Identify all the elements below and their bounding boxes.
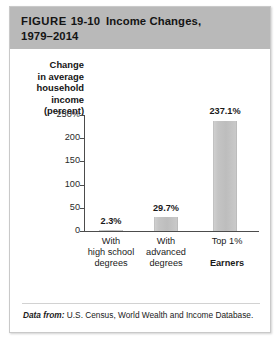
y-tick-mark-250: [80, 115, 85, 116]
source-note-text: U.S. Census, World Wealth and Income Dat…: [67, 310, 253, 320]
source-divider: [22, 303, 260, 304]
y-axis-tick-labels: 250% 200 150 100 50 0: [14, 49, 80, 302]
y-tick-mark-100: [80, 185, 85, 186]
bar-high-school-degrees[interactable]: [99, 230, 123, 231]
x-axis-line: [84, 231, 259, 232]
bar-value-top-1-percent-earners: 237.1%: [197, 107, 253, 117]
y-tick-mark-50: [80, 208, 85, 209]
y-tick-mark-0: [80, 231, 85, 232]
x-cat1-line2: advanced: [140, 247, 192, 258]
figure-number: 19-10: [71, 15, 100, 27]
x-cat2-line1: Top 1%: [199, 236, 255, 247]
figure-title-line2: 1979–2014: [21, 30, 78, 42]
x-category-label-top-1-percent-earners: Top 1% Earners: [199, 236, 255, 269]
x-cat1-line1: With: [140, 236, 192, 247]
figure-label: FIGURE: [21, 15, 67, 27]
bar-value-high-school-degrees: 2.3%: [87, 217, 135, 227]
source-note: Data from: U.S. Census, World Wealth and…: [23, 310, 263, 320]
y-tick-label-200: 200: [18, 133, 80, 142]
bar-top-1-percent-earners[interactable]: [213, 121, 237, 231]
figure-header-band: FIGURE19-10Income Changes, 1979–2014: [10, 7, 270, 49]
figure-title-line1: Income Changes,: [106, 15, 201, 27]
bar-value-advanced-degrees: 29.7%: [140, 204, 192, 214]
y-axis-line: [84, 115, 85, 232]
chart-plot-area: Change in average household income (perc…: [10, 49, 270, 302]
x-category-label-advanced-degrees: With advanced degrees: [140, 236, 192, 270]
x-cat1-line3: degrees: [140, 258, 192, 269]
bar-advanced-degrees[interactable]: [154, 217, 178, 231]
x-category-label-high-school-degrees: With high school degrees: [83, 236, 139, 270]
source-note-lead: Data from:: [23, 310, 65, 320]
y-tick-label-250: 250%: [18, 110, 80, 119]
x-cat0-line1: With: [83, 236, 139, 247]
y-tick-mark-200: [80, 138, 85, 139]
x-cat0-line3: degrees: [83, 258, 139, 269]
y-tick-label-150: 150: [18, 156, 80, 165]
x-cat0-line2: high school: [83, 247, 139, 258]
y-tick-label-50: 50: [18, 203, 80, 212]
y-tick-label-100: 100: [18, 180, 80, 189]
y-tick-mark-150: [80, 161, 85, 162]
y-tick-label-0: 0: [18, 226, 80, 235]
figure-container: FIGURE19-10Income Changes, 1979–2014 Cha…: [9, 6, 271, 333]
x-cat2-line2: Earners: [199, 258, 255, 269]
figure-title: FIGURE19-10Income Changes, 1979–2014: [21, 14, 260, 43]
